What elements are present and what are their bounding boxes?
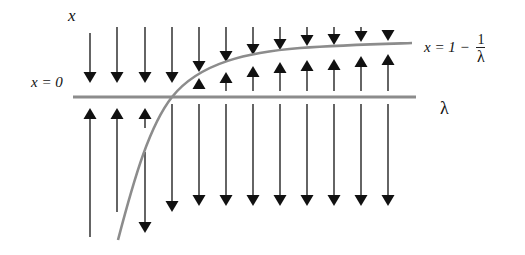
curve-equation-label: x = 1 − 1λ — [424, 33, 485, 65]
down-arrow-lower — [301, 104, 314, 206]
down-arrow-lower — [355, 104, 368, 206]
up-arrow-middle — [382, 54, 395, 91]
down-arrow-lower — [166, 104, 179, 212]
down-arrow-upper — [274, 27, 287, 50]
down-arrow-upper — [355, 27, 368, 42]
down-arrow-lower — [193, 104, 206, 206]
down-arrow-upper — [193, 27, 206, 72]
up-arrow-middle — [355, 56, 368, 91]
down-arrow-upper — [111, 27, 124, 83]
down-arrow-upper — [382, 30, 395, 41]
down-arrow-upper — [247, 27, 260, 55]
lambda-axis-label: λ — [440, 98, 449, 119]
equilibrium-curve — [118, 43, 412, 240]
down-arrow-lower — [382, 104, 395, 206]
fraction: 1λ — [476, 33, 485, 65]
down-arrow-lower — [328, 104, 341, 206]
down-arrow-upper — [84, 33, 97, 83]
down-arrow-upper — [139, 27, 152, 83]
down-arrow-upper — [220, 27, 233, 62]
fraction-denominator: λ — [476, 48, 485, 65]
up-arrow-middle — [274, 62, 287, 91]
down-arrow-upper — [328, 27, 341, 45]
up-arrow-lower — [111, 108, 124, 212]
up-arrow-middle — [247, 66, 260, 91]
up-arrow-middle — [193, 78, 206, 89]
up-arrow-middle — [301, 60, 314, 91]
x-zero-text: x = 0 — [31, 74, 63, 90]
down-arrow-lower — [247, 104, 260, 206]
up-arrow-lower — [139, 108, 152, 128]
x-zero-label: x = 0 — [31, 74, 63, 91]
x-axis-label: x — [68, 6, 76, 26]
up-arrow-middle — [328, 59, 341, 91]
down-arrow-lower — [220, 104, 233, 206]
curve-equation-lhs: x = 1 − — [424, 39, 473, 55]
down-arrow-lower — [274, 104, 287, 206]
up-arrow-lower — [84, 108, 97, 237]
up-arrow-middle — [220, 72, 233, 91]
down-arrow-upper — [301, 27, 314, 46]
fraction-numerator: 1 — [476, 33, 485, 48]
down-arrow-upper — [166, 27, 179, 83]
